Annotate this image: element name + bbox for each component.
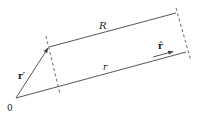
R-label: R bbox=[98, 20, 107, 31]
r-label: r bbox=[103, 62, 108, 72]
R-line bbox=[49, 13, 176, 47]
r-prime-label: r′ bbox=[18, 71, 26, 81]
vector-diagram: 0 r′ R r r̂ bbox=[0, 0, 200, 119]
origin-label: 0 bbox=[7, 103, 13, 113]
r-hat-label: r̂ bbox=[158, 41, 163, 51]
